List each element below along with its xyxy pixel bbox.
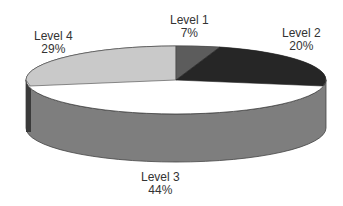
label-level-3: Level 344%	[141, 171, 180, 197]
label-level-2: Level 220%	[282, 27, 321, 53]
label-level-1: Level 17%	[170, 14, 209, 40]
label-level-4: Level 429%	[34, 30, 73, 56]
pie-side-edge-left	[26, 82, 31, 132]
